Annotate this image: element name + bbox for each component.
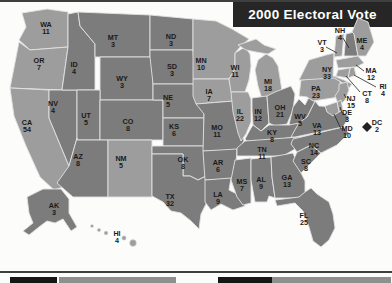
state-votes-va: 13 bbox=[313, 128, 321, 137]
state-ct bbox=[336, 68, 350, 78]
state-votes-or: 7 bbox=[37, 63, 41, 72]
legend-bar-4 bbox=[272, 277, 391, 283]
state-votes-hi: 4 bbox=[115, 236, 119, 245]
state-votes-wv: 5 bbox=[298, 119, 302, 128]
legend-bar-2 bbox=[59, 277, 176, 283]
state-votes-nm: 5 bbox=[119, 161, 123, 170]
state-hi-island-3 bbox=[104, 231, 108, 235]
diamond-icon bbox=[362, 122, 372, 132]
state-votes-ak: 3 bbox=[52, 208, 56, 217]
state-votes-tx: 32 bbox=[166, 199, 174, 208]
map-bottom-border bbox=[0, 271, 392, 273]
state-votes-ia: 7 bbox=[207, 94, 211, 103]
state-votes-me: 4 bbox=[360, 43, 364, 52]
state-votes-la: 9 bbox=[216, 197, 220, 206]
state-votes-mo: 11 bbox=[213, 130, 221, 139]
state-votes-wi: 11 bbox=[231, 70, 239, 79]
state-ma bbox=[336, 56, 364, 68]
state-votes-mt: 3 bbox=[111, 40, 115, 49]
state-votes-mn: 10 bbox=[197, 63, 205, 72]
state-votes-co: 8 bbox=[126, 124, 130, 133]
state-votes-mi: 18 bbox=[264, 84, 272, 93]
state-votes-ms: 7 bbox=[240, 184, 244, 193]
state-votes-oh: 21 bbox=[276, 110, 284, 119]
state-votes-nh: 4 bbox=[338, 33, 342, 42]
state-votes-tn: 11 bbox=[258, 152, 266, 161]
state-votes-in: 12 bbox=[254, 114, 262, 123]
state-votes-ma: 12 bbox=[367, 73, 375, 82]
state-votes-ct: 8 bbox=[365, 96, 369, 105]
state-votes-ga: 13 bbox=[283, 180, 291, 189]
state-hi-island-2 bbox=[97, 228, 101, 232]
legend-bar-3 bbox=[218, 277, 272, 283]
state-hi-island-1 bbox=[90, 224, 93, 227]
state-votes-ut: 5 bbox=[84, 118, 88, 127]
state-votes-fl: 25 bbox=[300, 218, 308, 227]
state-votes-vt: 3 bbox=[320, 45, 324, 54]
legend-bar-1 bbox=[10, 277, 57, 283]
state-votes-ky: 8 bbox=[270, 135, 274, 144]
electoral-map-figure: 2000 Electoral Vote WA11OR7CA54NV4ID4MT3… bbox=[0, 0, 392, 283]
state-votes-sd: 3 bbox=[170, 69, 174, 78]
state-votes-nc: 14 bbox=[310, 148, 318, 157]
state-votes-md: 10 bbox=[343, 131, 351, 140]
us-map: WA11OR7CA54NV4ID4MT3WY3UT5CO8AZ8NM5ND3SD… bbox=[0, 0, 392, 283]
state-votes-az: 8 bbox=[76, 159, 80, 168]
state-votes-ne: 5 bbox=[166, 100, 170, 109]
state-ak bbox=[23, 189, 77, 235]
state-votes-dc: 2 bbox=[375, 125, 379, 134]
state-votes-al: 9 bbox=[259, 182, 263, 191]
state-votes-id: 4 bbox=[72, 67, 76, 76]
state-votes-nd: 3 bbox=[169, 39, 173, 48]
state-nm bbox=[108, 140, 152, 197]
state-votes-ca: 54 bbox=[23, 125, 31, 134]
state-hi-island-5 bbox=[130, 240, 137, 247]
state-votes-pa: 23 bbox=[312, 91, 320, 100]
state-votes-wa: 11 bbox=[42, 27, 50, 36]
state-votes-il: 22 bbox=[236, 114, 244, 123]
state-votes-sc: 8 bbox=[304, 164, 308, 173]
state-votes-ri: 4 bbox=[381, 89, 385, 98]
state-votes-nv: 4 bbox=[51, 106, 55, 115]
state-votes-ok: 8 bbox=[181, 162, 185, 171]
state-ia bbox=[193, 79, 234, 104]
state-votes-ar: 6 bbox=[216, 165, 220, 174]
state-votes-ny: 33 bbox=[323, 72, 331, 81]
state-hi-island-4 bbox=[122, 236, 126, 240]
state-votes-ks: 6 bbox=[172, 129, 176, 138]
callout-line-ma bbox=[356, 65, 364, 71]
state-votes-wy: 3 bbox=[120, 81, 124, 90]
